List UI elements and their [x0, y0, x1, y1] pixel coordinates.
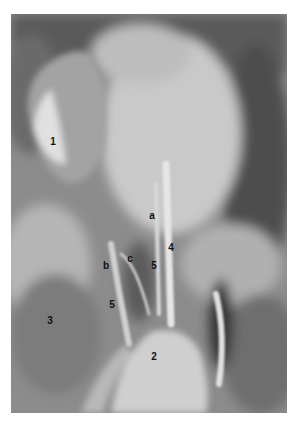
label-1: 1	[50, 137, 56, 147]
label-5-upper: 5	[151, 261, 157, 271]
label-5-lower: 5	[109, 300, 115, 310]
label-c: c	[127, 254, 133, 264]
label-4: 4	[168, 243, 174, 253]
label-b: b	[103, 261, 109, 271]
label-a: a	[149, 211, 155, 221]
label-3: 3	[47, 316, 53, 326]
label-2: 2	[151, 352, 157, 362]
